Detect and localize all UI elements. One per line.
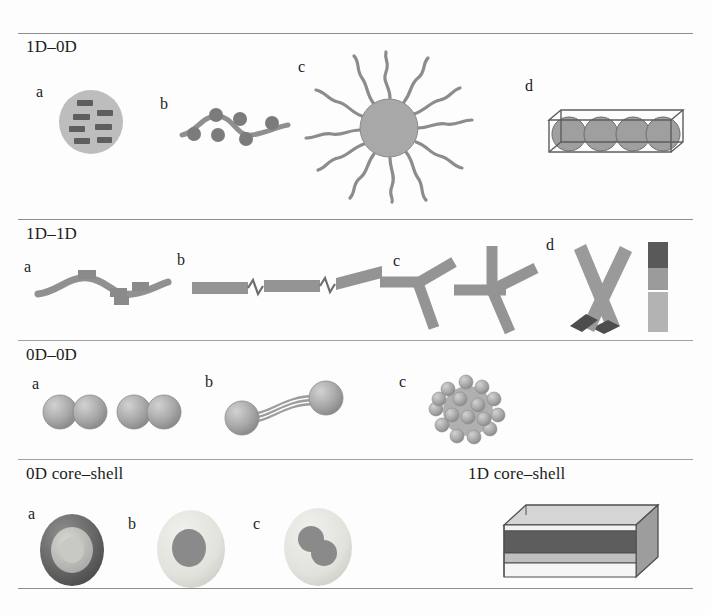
sphere-dimers bbox=[42, 388, 182, 434]
panel-letter-cs-a: a bbox=[28, 505, 35, 523]
wavy-rod-with-blocks bbox=[36, 268, 170, 310]
panel-letter-0d0d-b: b bbox=[205, 373, 213, 391]
figure-canvas: 1D–0D a b bbox=[0, 0, 711, 615]
crossed-rods-and-striped-segmented-rod bbox=[568, 240, 678, 336]
section-label-0d-0d: 0D–0D bbox=[26, 345, 77, 365]
wavy-chain-decorated-with-spheres bbox=[180, 107, 290, 153]
spheres-linked-by-triple-strands bbox=[222, 380, 352, 436]
sphere-with-embedded-rods bbox=[55, 88, 127, 156]
panel-letter-0d0d-c: c bbox=[399, 373, 406, 391]
light-shell-dark-core-sphere bbox=[152, 508, 230, 590]
panel-letter-1d1d-b: b bbox=[177, 251, 185, 269]
panel-letter-1d1d-d: d bbox=[546, 236, 554, 254]
section-label-1d-0d: 1D–0D bbox=[26, 37, 77, 57]
panel-letter-0d0d-a: a bbox=[32, 375, 39, 393]
rods-joined-by-zigzag-linkers bbox=[192, 262, 382, 304]
sphere-with-radiating-polymer-chains bbox=[300, 52, 480, 202]
section-rule-bottom bbox=[18, 588, 693, 589]
section-rule-top bbox=[18, 33, 693, 34]
y-and-cross-rod-junctions bbox=[380, 236, 560, 334]
dark-shell-light-core-sphere bbox=[36, 512, 108, 588]
section-label-1d-core-shell: 1D core–shell bbox=[468, 464, 566, 484]
section-label-0d-core-shell: 0D core–shell bbox=[26, 464, 124, 484]
section-rule-core-shell bbox=[18, 459, 693, 460]
section-rule-1d-1d bbox=[18, 219, 693, 220]
section-rule-0d-0d bbox=[18, 340, 693, 341]
panel-letter-1d0d-a: a bbox=[36, 83, 43, 101]
panel-letter-1d1d-a: a bbox=[24, 258, 31, 276]
panel-letter-1d0d-d: d bbox=[525, 77, 533, 95]
striped-core-shell-nanobar bbox=[486, 503, 666, 587]
panel-letter-cs-c: c bbox=[253, 515, 260, 533]
light-shell-two-dark-cores-sphere bbox=[278, 505, 358, 589]
panel-letter-1d0d-b: b bbox=[160, 95, 168, 113]
section-label-1d-1d: 1D–1D bbox=[26, 224, 77, 244]
sphere-cluster-aggregate bbox=[424, 373, 512, 447]
panel-letter-cs-b: b bbox=[128, 515, 136, 533]
nanotube-filled-with-spheres bbox=[537, 106, 687, 160]
